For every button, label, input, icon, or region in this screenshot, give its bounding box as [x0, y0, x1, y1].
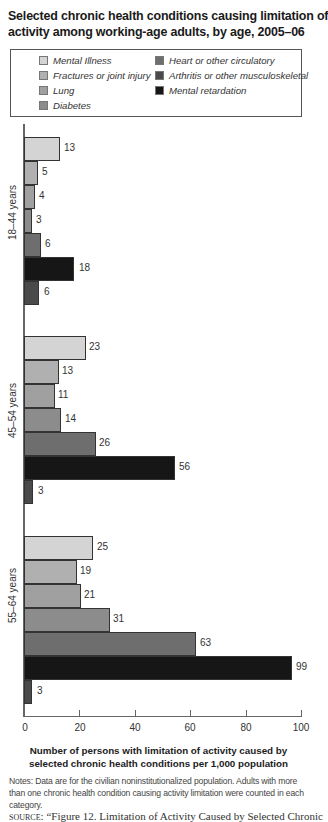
bar-value: 21 — [84, 589, 95, 600]
chart-title-line-2: activity among working-age adults, by ag… — [8, 24, 287, 40]
x-tick — [301, 710, 302, 717]
x-tick-label: 0 — [22, 722, 28, 733]
bar-value: 26 — [99, 437, 110, 448]
bar-mental-retardation — [24, 281, 39, 305]
bar-value: 14 — [65, 413, 76, 424]
bar-value: 5 — [42, 166, 48, 177]
x-axis-title-line-1: Number of persons with limitation of act… — [0, 744, 317, 757]
legend-label: Mental Illness — [53, 55, 112, 66]
bar-value: 31 — [113, 613, 124, 624]
legend-label: Heart or other circulatory — [169, 55, 275, 66]
x-tick-label: 20 — [74, 722, 85, 733]
bar-value: 13 — [62, 365, 73, 376]
chart-source: source: “Figure 12. Limitation of Activi… — [9, 810, 319, 822]
bar-value: 11 — [58, 389, 68, 400]
x-tick — [246, 710, 247, 717]
legend-swatch-icon — [39, 71, 48, 80]
bar-value: 56 — [179, 461, 190, 472]
x-tick-label: 80 — [240, 722, 251, 733]
legend-swatch-icon — [155, 71, 164, 80]
chart-notes: Notes: Data are for the civilian noninst… — [9, 775, 311, 811]
legend-label: Fractures or joint injury — [53, 70, 151, 81]
bar-diabetes — [24, 608, 110, 632]
bar-value: 3 — [37, 685, 43, 696]
legend-item-lung: Lung — [39, 85, 74, 96]
legend-swatch-icon — [39, 101, 48, 110]
bar-lung — [24, 185, 35, 209]
chart-title: Selected chronic health conditions causi… — [8, 8, 287, 40]
bar-diabetes — [24, 209, 32, 233]
bar-heart — [24, 432, 96, 456]
legend-item-arthritis: Arthritis or other musculoskeletal — [155, 70, 308, 81]
legend-label: Mental retardation — [169, 85, 246, 96]
bar-heart — [24, 233, 41, 257]
legend-item-mental-illness: Mental Illness — [39, 55, 112, 66]
bar-heart — [24, 632, 196, 656]
bar-fractures — [24, 560, 77, 584]
group-label-18-44: 18–44 years — [7, 185, 18, 240]
legend-item-diabetes: Diabetes — [39, 100, 91, 111]
legend-swatch-icon — [155, 86, 164, 95]
x-axis-title: Number of persons with limitation of act… — [0, 744, 317, 770]
legend-item-fractures: Fractures or joint injury — [39, 70, 151, 81]
legend: Mental Illness Fractures or joint injury… — [10, 49, 302, 117]
legend-swatch-icon — [39, 86, 48, 95]
x-tick — [190, 710, 191, 717]
bar-lung — [24, 384, 55, 408]
legend-item-heart: Heart or other circulatory — [155, 55, 275, 66]
bar-fractures — [24, 360, 59, 384]
bar-mental-illness — [24, 137, 60, 161]
legend-swatch-icon — [39, 56, 48, 65]
x-tick — [24, 710, 25, 717]
legend-swatch-icon — [155, 56, 164, 65]
bar-value: 4 — [39, 190, 45, 201]
source-prefix: source: — [9, 810, 44, 822]
bar-mental-illness — [24, 336, 86, 360]
x-tick-label: 60 — [184, 722, 195, 733]
legend-label: Diabetes — [53, 100, 91, 111]
bar-arthritis — [24, 257, 74, 281]
bar-value: 25 — [97, 541, 108, 552]
group-label-45-54: 45–54 years — [7, 383, 18, 438]
bar-diabetes — [24, 408, 61, 432]
bar-mental-retardation — [24, 480, 33, 504]
bar-value: 19 — [80, 565, 91, 576]
x-tick-label: 40 — [129, 722, 140, 733]
legend-label: Lung — [53, 85, 74, 96]
bar-value: 3 — [36, 214, 42, 225]
bar-arthritis — [24, 656, 292, 680]
bar-value: 6 — [44, 286, 50, 297]
bar-value: 13 — [64, 142, 75, 153]
bar-value: 23 — [89, 341, 100, 352]
bar-mental-illness — [24, 536, 93, 560]
group-label-55-64: 55–64 years — [7, 568, 18, 623]
bar-chart: 18–44 years 13 5 4 3 6 18 6 45–54 years … — [0, 120, 317, 740]
bar-value: 63 — [200, 637, 211, 648]
x-axis-line — [24, 716, 301, 717]
legend-item-mental-retardation: Mental retardation — [155, 85, 246, 96]
bar-value: 18 — [79, 262, 90, 273]
x-tick-label: 100 — [293, 722, 310, 733]
x-tick — [79, 710, 80, 717]
bar-value: 6 — [45, 238, 51, 249]
legend-label: Arthritis or other musculoskeletal — [169, 70, 308, 81]
x-tick — [135, 710, 136, 717]
bar-value: 99 — [296, 661, 307, 672]
chart-title-line-1: Selected chronic health conditions causi… — [8, 8, 287, 24]
bar-value: 3 — [38, 485, 44, 496]
bar-arthritis — [24, 456, 175, 480]
bar-lung — [24, 584, 81, 608]
bar-fractures — [24, 161, 38, 185]
source-text: “Figure 12. Limitation of Activity Cause… — [44, 810, 323, 822]
bar-mental-retardation — [24, 680, 32, 704]
x-axis-title-line-2: selected chronic health conditions per 1… — [0, 757, 317, 770]
